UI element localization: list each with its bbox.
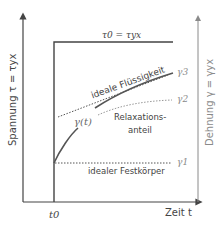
strain-axis-label: Dehnung γ = γyx bbox=[205, 59, 215, 146]
gamma3-label: γ3 bbox=[177, 68, 188, 77]
relaxation-label-1: Relaxations- bbox=[114, 113, 166, 122]
t0-tick-label: t0 bbox=[49, 210, 59, 220]
time-axis-label: Zeit t bbox=[165, 208, 192, 218]
stress-axis-label: Spannung τ = τyx bbox=[8, 54, 18, 146]
gamma2-label: γ2 bbox=[177, 95, 188, 104]
relaxation-label-2: anteil bbox=[128, 126, 152, 135]
stress-level-label: τ0 = τyx bbox=[102, 31, 141, 40]
ideal-solid-label: idealer Festkörper bbox=[88, 167, 165, 176]
curve-label: γ(t) bbox=[74, 117, 92, 127]
gamma1-label: γ1 bbox=[177, 158, 188, 167]
